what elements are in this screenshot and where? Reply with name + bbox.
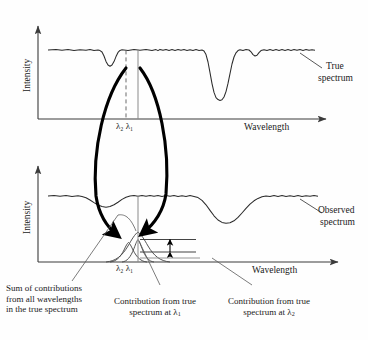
sum-caption-leader-line [72,215,118,281]
top-x-axis-label: Wavelength [244,122,289,133]
sum-caption-line3: in the true spectrum [6,304,82,315]
bottom-y-axis-label: Intensity [22,201,33,234]
contribution-lambda2-subscript: 2 [292,311,295,317]
top-y-axis-label: Intensity [22,59,33,92]
top-panel-axes [38,26,326,119]
contribution-lambda1-line2: spectrum at λ1 [114,307,196,319]
spectroscopy-figure: Intensity Wavelength λ₂ λ₁ True spectrum… [0,0,368,340]
contribution-lambda2-line2-prefix: spectrum at λ [243,307,291,317]
contribution-lambda2-line1: Contribution from true [228,296,310,307]
observed-spectrum-label-line1: Observed [318,205,354,216]
contribution-lambda1-line1: Contribution from true [114,296,196,307]
sum-of-contributions-caption: Sum of contributions from all wavelength… [6,283,82,315]
contribution-lambda1-caption: Contribution from true spectrum at λ1 [114,296,196,318]
true-spectrum-label-line1: True [326,61,344,72]
sum-caption-line2: from all wavelengths [6,294,82,305]
thick-arrow-lambda2 [95,68,126,236]
bottom-lambda-pair-label: λ₂ λ₁ [116,263,133,274]
bottom-x-axis-label: Wavelength [252,265,297,276]
thick-arrow-lambda1 [140,68,167,234]
sum-caption-leader-hook [118,215,136,231]
true-spectrum-label-line2: spectrum [318,73,353,84]
bottom-panel-axes [38,166,338,262]
sum-caption-line1: Sum of contributions [6,283,82,294]
observed-spectrum-label-line2: spectrum [320,217,355,228]
observed-spectrum-trace [48,195,318,223]
top-lambda-pair-label: λ₂ λ₁ [116,121,133,132]
contribution-lambda1-line2-prefix: spectrum at λ [129,307,177,317]
contribution-lambda2-caption: Contribution from true spectrum at λ2 [228,296,310,318]
true-spectrum-leader-line [300,53,322,68]
contribution-lambda1-subscript: 1 [178,311,181,317]
contribution-lambda2-line2: spectrum at λ2 [228,307,310,319]
true-spectrum-trace [48,49,315,100]
